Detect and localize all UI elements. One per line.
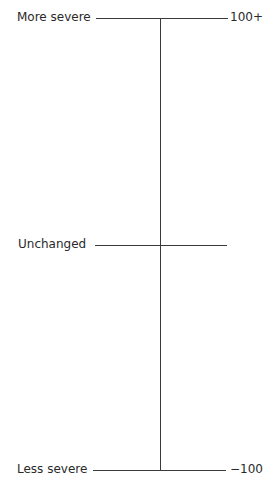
middle-tick-line (95, 245, 227, 246)
top-label: More severe (17, 10, 91, 24)
bottom-tick-line (93, 470, 226, 471)
bottom-value: −100 (230, 462, 263, 476)
bottom-label: Less severe (17, 462, 87, 476)
top-value: 100+ (230, 10, 263, 24)
top-tick-line (96, 18, 228, 19)
middle-label: Unchanged (18, 237, 86, 251)
